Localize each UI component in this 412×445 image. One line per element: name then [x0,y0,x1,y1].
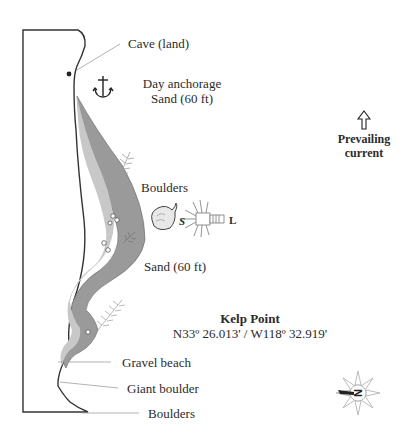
label-scallop-code: S [179,214,185,229]
label-lobster-code: L [229,213,236,228]
label-cave: Cave (land) [128,36,189,51]
up-arrow-icon [358,111,370,129]
lobster-icon [180,200,224,237]
label-anchorage-line1: Day anchorage [128,76,236,91]
cave-marker [67,72,72,77]
kelp-icon [97,300,125,330]
label-boulders-upper: Boulders [141,180,188,195]
compass-rose-icon: N [336,371,380,415]
label-giant-boulder: Giant boulder [127,381,199,396]
label-sand-lower: Sand (60 ft) [144,259,206,274]
label-anchorage-line2: Sand (60 ft) [128,91,236,106]
dive-site-map: N [0,0,412,445]
scallop-icon [152,203,177,230]
label-boulders-lower: Boulders [148,406,195,421]
anchor-icon [93,76,113,97]
legend-prevailing-current: Prevailing current [324,132,404,160]
land-outline [23,30,88,412]
site-name: Kelp Point [140,311,360,326]
site-coordinates: N33º 26.013' / W118º 32.919' [140,326,360,341]
label-gravel-beach: Gravel beach [122,355,191,370]
compass-letter: N [352,389,364,397]
site-info: Kelp Point N33º 26.013' / W118º 32.919' [140,311,360,341]
label-day-anchorage: Day anchorage Sand (60 ft) [128,76,236,106]
current-line1: Prevailing [324,132,404,146]
current-line2: current [324,146,404,160]
